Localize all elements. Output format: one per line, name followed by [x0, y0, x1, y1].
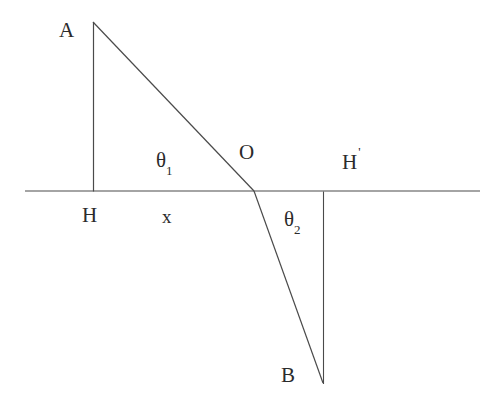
label-point-b: B: [281, 365, 295, 386]
label-theta-1: θ1: [156, 150, 173, 174]
label-foot-h: H: [82, 205, 97, 226]
incident-ray-AO: [93, 22, 254, 191]
label-foot-h-prime: H': [342, 150, 360, 173]
prime-mark-icon: ': [358, 144, 360, 159]
label-distance-x: x: [162, 207, 172, 226]
label-point-a: A: [59, 20, 74, 41]
theta-2-symbol: θ: [284, 207, 294, 231]
refraction-diagram: A O H' θ1 H x θ2 B: [0, 0, 498, 408]
label-point-o: O: [239, 142, 254, 163]
theta-1-symbol: θ: [156, 148, 166, 172]
diagram-canvas: [0, 0, 498, 408]
theta-1-subscript: 1: [166, 163, 173, 178]
label-theta-2: θ2: [284, 209, 301, 233]
theta-2-subscript: 2: [294, 222, 301, 237]
label-h-prime-letter: H: [342, 150, 357, 174]
